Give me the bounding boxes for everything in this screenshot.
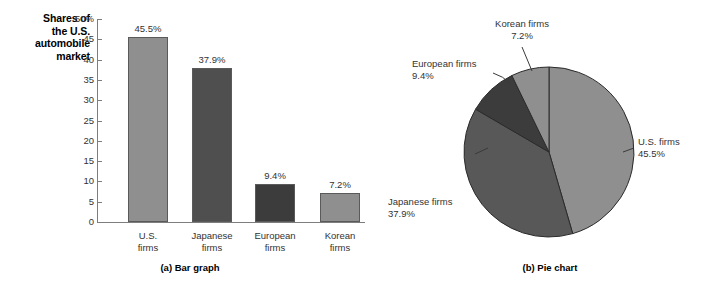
pie-label-us-firms-value: 45.5% bbox=[638, 148, 680, 160]
x-axis-category-label-line: firms bbox=[178, 242, 246, 254]
bar-2 bbox=[192, 68, 232, 222]
y-axis-tick-label: 30 bbox=[68, 95, 94, 105]
x-axis-category-label-line: firms bbox=[306, 242, 374, 254]
x-axis-category-label-2: Japanesefirms bbox=[178, 230, 246, 253]
figure-shares-of-us-automobile-market: Shares of the U.S. automobile market 50%… bbox=[0, 0, 719, 287]
bar-graph-panel: Shares of the U.S. automobile market 50%… bbox=[0, 0, 380, 287]
y-axis-tick-label: 0 bbox=[68, 217, 94, 227]
y-axis-tick-label: 20 bbox=[68, 136, 94, 146]
y-axis-tick-label: 5 bbox=[68, 197, 94, 207]
pie-label-korean-firms: Korean firms 7.2% bbox=[485, 18, 559, 42]
x-axis-category-label-line: firms bbox=[241, 242, 309, 254]
pie-label-korean-firms-value: 7.2% bbox=[485, 30, 559, 42]
y-axis-tick-label: 45 bbox=[68, 34, 94, 44]
panel-a-caption: (a) Bar graph bbox=[120, 262, 260, 273]
pie-label-european-firms-text: European firms bbox=[412, 58, 476, 69]
x-axis-category-label-line: Korean bbox=[306, 230, 374, 242]
bar-value-label-4: 7.2% bbox=[312, 180, 368, 190]
bar-value-label-3: 9.4% bbox=[247, 171, 303, 181]
y-axis-tick-label: 10 bbox=[68, 176, 94, 186]
pie-label-korean-firms-text: Korean firms bbox=[495, 18, 549, 29]
y-axis-tick-label: 15 bbox=[68, 156, 94, 166]
y-axis-tick-label: 35 bbox=[68, 75, 94, 85]
pie-label-us-firms-text: U.S. firms bbox=[638, 136, 680, 147]
pie-label-european-firms: European firms 9.4% bbox=[412, 58, 476, 82]
bar-1 bbox=[128, 37, 168, 222]
y-axis-tick-label: 50% bbox=[68, 14, 94, 24]
y-axis-tick-label: 40 bbox=[68, 55, 94, 65]
x-axis-category-label-line: firms bbox=[114, 242, 182, 254]
pie-label-japanese-firms: Japanese firms 37.9% bbox=[388, 196, 452, 220]
bar-value-label-1: 45.5% bbox=[120, 24, 176, 34]
x-axis-category-label-line: U.S. bbox=[114, 230, 182, 242]
bar-series bbox=[97, 19, 365, 222]
pie-label-us-firms: U.S. firms 45.5% bbox=[638, 136, 680, 160]
x-axis-line bbox=[97, 222, 365, 223]
y-axis-tick-labels: 50%454035302520151050 bbox=[62, 0, 94, 287]
x-axis-category-label-1: U.S.firms bbox=[114, 230, 182, 253]
pie-slices bbox=[464, 67, 634, 237]
y-axis-tick-label: 25 bbox=[68, 116, 94, 126]
x-axis-category-label-3: Europeanfirms bbox=[241, 230, 309, 253]
x-axis-category-label-4: Koreanfirms bbox=[306, 230, 374, 253]
pie-label-japanese-firms-value: 37.9% bbox=[388, 208, 452, 220]
y-axis-tick bbox=[98, 222, 102, 223]
x-axis-category-label-line: European bbox=[241, 230, 309, 242]
bar-3 bbox=[255, 184, 295, 222]
bar-4 bbox=[320, 193, 360, 222]
x-axis-category-label-line: Japanese bbox=[178, 230, 246, 242]
pie-chart-panel: U.S. firms 45.5% Japanese firms 37.9% Eu… bbox=[380, 0, 719, 287]
bar-value-label-2: 37.9% bbox=[184, 55, 240, 65]
panel-b-caption: (b) Pie chart bbox=[490, 262, 610, 273]
pie-label-european-firms-value: 9.4% bbox=[412, 70, 476, 82]
leader-line-korean bbox=[522, 47, 532, 71]
pie-label-japanese-firms-text: Japanese firms bbox=[388, 196, 452, 207]
